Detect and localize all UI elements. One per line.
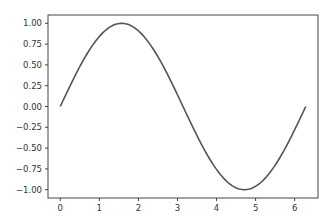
y-tick-label: −1.00: [16, 185, 42, 195]
x-tick-label: 5: [253, 203, 258, 213]
x-tick-label: 1: [97, 203, 102, 213]
sine-line-chart: 1.000.750.500.250.00−0.25−0.50−0.75−1.00…: [0, 0, 335, 224]
x-tick-label: 6: [292, 203, 297, 213]
x-tick-label: 4: [214, 203, 219, 213]
y-tick-label: 0.50: [23, 60, 42, 70]
y-tick-label: 0.75: [23, 39, 42, 49]
x-axis: 0123456: [58, 198, 298, 213]
y-tick-label: 1.00: [23, 18, 42, 28]
x-tick-label: 2: [136, 203, 141, 213]
sine-curve: [60, 23, 305, 189]
y-tick-label: −0.75: [16, 164, 42, 174]
y-tick-label: −0.25: [16, 122, 42, 132]
y-tick-label: 0.25: [23, 81, 42, 91]
y-tick-label: 0.00: [23, 102, 42, 112]
x-tick-label: 3: [175, 203, 180, 213]
y-axis: 1.000.750.500.250.00−0.25−0.50−0.75−1.00: [16, 18, 48, 194]
y-tick-label: −0.50: [16, 143, 42, 153]
x-tick-label: 0: [58, 203, 63, 213]
